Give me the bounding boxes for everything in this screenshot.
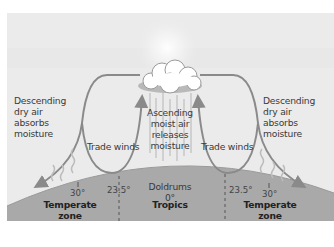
label-line: dry air (263, 106, 315, 117)
label-line: Ascending (135, 107, 205, 118)
center-ascending-label: Ascending moist air releases moisture (135, 107, 205, 151)
label-line: moisture (14, 128, 66, 139)
zone-tropics: Tropics (137, 199, 203, 210)
label-line: moisture (263, 128, 315, 139)
zone-line: zone (235, 210, 305, 221)
label-line: moist air (135, 118, 205, 129)
diagram-panel: Descending dry air absorbs moisture Desc… (7, 13, 334, 221)
latitude-left-23-5: 23.5° (107, 185, 130, 195)
label-line: releases (135, 129, 205, 140)
right-descending-label: Descending dry air absorbs moisture (263, 95, 315, 139)
left-descending-label: Descending dry air absorbs moisture (14, 95, 66, 139)
label-line: moisture (135, 140, 205, 151)
zone-right-temperate: Temperate zone (235, 199, 305, 221)
doldrums-text: Doldrums (140, 181, 200, 192)
latitude-right-23-5: 23.5° (229, 185, 252, 195)
label-line: Descending (14, 95, 66, 106)
right-trade-winds-label: Trade winds (201, 141, 253, 152)
label-line: absorbs (14, 117, 66, 128)
latitude-right-30: 30° (262, 189, 277, 199)
zone-line: Temperate (35, 199, 105, 210)
label-line: Descending (263, 95, 315, 106)
zone-line: Temperate (235, 199, 305, 210)
latitude-left-30: 30° (70, 188, 85, 198)
zone-line: zone (35, 210, 105, 221)
label-line: dry air (14, 106, 66, 117)
label-line: absorbs (263, 117, 315, 128)
zone-left-temperate: Temperate zone (35, 199, 105, 221)
zone-line: Tropics (137, 199, 203, 210)
left-trade-winds-label: Trade winds (87, 141, 139, 152)
